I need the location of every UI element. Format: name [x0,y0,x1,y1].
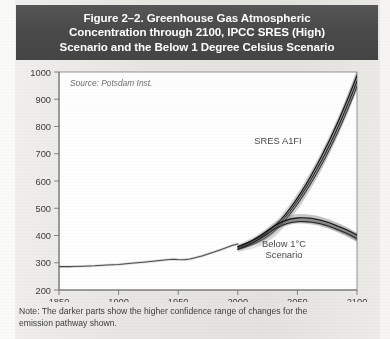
y-tick-200: 200 [35,286,51,296]
x-tick-1950: 1950 [168,297,189,302]
y-tick-900: 900 [35,95,51,105]
figure-page: Figure 2–2. Greenhouse Gas Atmospheric C… [0,0,390,339]
y-axis: 1000 900 800 700 600 500 400 300 200 [30,68,59,296]
paper-right-margin [380,0,390,339]
below-1c-label-line-1: Below 1°C [262,238,306,249]
below-1c-label-line-2: Scenario [265,249,302,260]
sres-a1fi-label: SRES A1FI [254,135,301,146]
chart-region: Parts per Million [16,62,378,302]
y-tick-700: 700 [35,149,51,159]
y-tick-300: 300 [35,258,51,268]
figure-title-line-3: Scenario and the Below 1 Degree Celsius … [60,40,335,55]
y-tick-1000: 1000 [30,68,51,78]
figure-title-bar: Figure 2–2. Greenhouse Gas Atmospheric C… [16,5,378,60]
figure-title-line-1: Figure 2–2. Greenhouse Gas Atmospheric [60,11,335,26]
x-tick-2000: 2000 [227,297,248,302]
source-note: Source: Potsdam Inst. [70,78,152,88]
x-tick-2100: 2100 [347,297,368,302]
y-tick-600: 600 [35,177,51,187]
figure-title: Figure 2–2. Greenhouse Gas Atmospheric C… [60,11,335,55]
figure-title-line-2: Concentration through 2100, IPCC SRES (H… [60,25,335,40]
y-tick-800: 800 [35,122,51,132]
figure-footnote: Note: The darker parts show the higher c… [19,306,371,329]
paper-left-margin [0,0,15,339]
x-tick-2050: 2050 [287,297,308,302]
y-tick-500: 500 [35,204,51,214]
figure-footnote-line-1: Note: The darker parts show the higher c… [19,306,371,318]
x-axis: 1850 1900 1950 2000 2050 2100 [49,290,368,302]
x-tick-1850: 1850 [49,297,70,302]
y-tick-400: 400 [35,231,51,241]
line-chart: 1000 900 800 700 600 500 400 300 200 185… [16,62,378,302]
figure-footnote-line-2: emission pathway shown. [19,318,371,330]
x-tick-1900: 1900 [108,297,129,302]
